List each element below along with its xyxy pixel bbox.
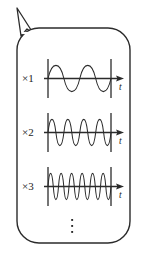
harmonic-row-3-label: ×3 bbox=[22, 180, 34, 192]
harmonic-row-2-label: ×2 bbox=[22, 126, 34, 138]
row-3-axis-label: t bbox=[119, 190, 122, 200]
callout-bubble-body bbox=[17, 28, 130, 243]
row-1-axis-label: t bbox=[119, 82, 122, 92]
cropped-caption-fragment bbox=[60, 0, 142, 3]
figure-canvas: ×1 t ×2 t ×3 bbox=[0, 0, 142, 261]
row-2-axis-label: t bbox=[119, 136, 122, 146]
harmonic-row-1-label: ×1 bbox=[22, 72, 34, 84]
harmonics-callout-figure: ×1 t ×2 t ×3 bbox=[0, 0, 142, 261]
